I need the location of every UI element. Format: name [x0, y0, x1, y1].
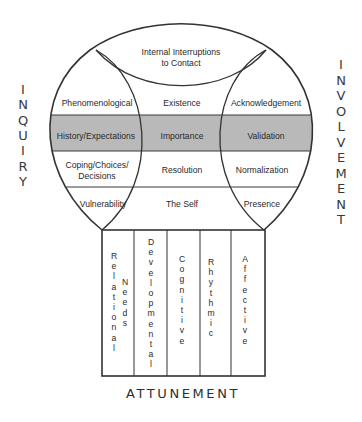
column-label-relational: o — [112, 312, 117, 322]
column-label-cognitive: e — [180, 336, 185, 346]
column-label-developmental: D — [148, 237, 154, 247]
column-label-needs: s — [123, 318, 127, 328]
column-label-developmental: n — [149, 329, 154, 339]
cell-validation: Validation — [247, 131, 284, 141]
cell-resolution: Resolution — [162, 165, 203, 175]
column-label-needs: e — [123, 287, 128, 297]
column-label-developmental: l — [150, 359, 152, 369]
inquiry-letter: N — [18, 97, 28, 112]
top-region-label-line2: to Contact — [161, 58, 201, 68]
column-label-relational: t — [113, 292, 116, 302]
column-label-rhythmic: t — [210, 288, 213, 298]
cell-history-expectations: History/Expectations — [57, 131, 135, 141]
column-label-developmental: p — [149, 298, 154, 308]
column-label-cognitive: o — [180, 264, 185, 274]
column-label-relational: R — [111, 251, 117, 261]
column-label-cognitive: t — [181, 305, 184, 315]
column-label-needs: d — [123, 308, 128, 318]
cell-acknowledgement: Acknowledgement — [231, 98, 302, 108]
column-label-developmental: m — [147, 308, 154, 318]
inquiry-letter: R — [18, 159, 27, 174]
column-label-cognitive: C — [179, 254, 185, 264]
involvement-letter: V — [337, 88, 346, 103]
inquiry-letter: I — [21, 82, 25, 97]
cell-coping-line1: Coping/Choices/ — [65, 160, 129, 170]
column-label-needs: N — [122, 277, 128, 287]
top-region-label-line1: Internal Interruptions — [142, 47, 221, 57]
column-label-relational: a — [112, 333, 117, 343]
column-label-affective: v — [243, 325, 248, 335]
cell-the-self: The Self — [166, 199, 199, 209]
column-label-relational: a — [112, 282, 117, 292]
column-label-cognitive: g — [180, 274, 185, 284]
column-label-cognitive: n — [180, 285, 185, 295]
column-label-developmental: t — [150, 339, 153, 349]
column-label-relational: l — [113, 271, 115, 281]
column-label-developmental: v — [149, 257, 154, 267]
column-label-needs: e — [123, 297, 128, 307]
inquiry-label: INQUIRY — [18, 82, 28, 189]
cell-existence: Existence — [163, 98, 200, 108]
column-label-affective: t — [244, 305, 247, 315]
column-label-developmental: e — [149, 319, 154, 329]
cell-phenomenological: Phenomenological — [62, 98, 133, 108]
column-label-affective: e — [243, 336, 248, 346]
attunement-label: ATTUNEMENT — [126, 386, 240, 401]
involvement-letter: I — [339, 57, 343, 72]
column-label-relational: e — [112, 261, 117, 271]
involvement-letter: E — [337, 181, 345, 196]
column-label-developmental: e — [149, 268, 154, 278]
cell-vulnerability: Vulnerability — [80, 199, 127, 209]
column-label-affective: f — [244, 274, 247, 284]
involvement-letter: E — [337, 150, 345, 165]
column-label-relational: n — [112, 322, 117, 332]
column-label-affective: c — [243, 295, 248, 305]
involvement-label: INVOLVEMENT — [335, 57, 346, 227]
involvement-letter: N — [336, 197, 346, 212]
column-label-developmental: a — [149, 349, 154, 359]
column-labels: RelationalNeedsDevelopmentalCognitiveRhy… — [111, 237, 248, 369]
column-label-rhythmic: m — [207, 308, 214, 318]
column-label-rhythmic: y — [209, 277, 214, 287]
column-label-relational: l — [113, 343, 115, 353]
involvement-letter: L — [337, 119, 345, 134]
column-label-cognitive: i — [181, 295, 183, 305]
inquiry-letter: I — [21, 143, 25, 158]
column-label-rhythmic: c — [209, 328, 214, 338]
involvement-letter: N — [336, 73, 346, 88]
involvement-letter: O — [336, 104, 346, 119]
cell-normalization: Normalization — [236, 165, 289, 175]
inquiry-letter: Y — [18, 174, 27, 189]
column-label-affective: f — [244, 264, 247, 274]
column-label-developmental: l — [150, 278, 152, 288]
integrative-psychotherapy-diagram: Internal Interruptions to Contact Phenom… — [0, 0, 362, 422]
cell-coping-line2: Decisions — [78, 171, 115, 181]
column-label-cognitive: i — [181, 315, 183, 325]
column-label-rhythmic: i — [210, 318, 212, 328]
column-label-rhythmic: h — [209, 298, 214, 308]
inquiry-letter: Q — [18, 113, 28, 128]
inquiry-letter: U — [18, 128, 28, 143]
involvement-letter: V — [337, 135, 346, 150]
column-label-developmental: o — [149, 288, 154, 298]
column-label-developmental: e — [149, 247, 154, 257]
column-label-rhythmic: R — [208, 257, 214, 267]
column-label-cognitive: v — [180, 325, 185, 335]
cell-importance: Importance — [161, 131, 204, 141]
column-label-affective: i — [244, 315, 246, 325]
column-label-rhythmic: h — [209, 267, 214, 277]
column-label-affective: e — [243, 285, 248, 295]
involvement-letter: T — [336, 212, 345, 227]
column-label-relational: i — [113, 302, 115, 312]
cell-presence: Presence — [244, 199, 281, 209]
column-label-affective: A — [242, 254, 248, 264]
involvement-letter: M — [335, 166, 346, 181]
